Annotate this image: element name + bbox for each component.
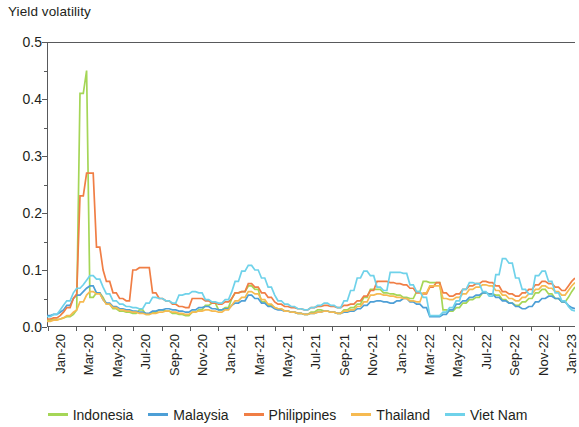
x-tick [559,327,560,331]
x-tick-label: Jan-22 [394,334,409,374]
x-tick-label: May-20 [110,334,125,377]
x-tick [474,327,475,331]
legend-item-philippines[interactable]: Philippines [244,407,337,423]
plot-area: 0.00.10.20.30.40.5 Jan-20Mar-20May-20Jul… [47,42,575,327]
x-tick [531,327,532,331]
x-tick [218,327,219,331]
y-tick-label: 0.0 [23,319,42,335]
x-tick [76,327,77,331]
x-tick [303,327,304,331]
x-tick-label: May-21 [280,334,295,377]
x-tick [48,327,49,331]
legend-item-viet-nam[interactable]: Viet Nam [445,407,527,423]
legend-swatch-icon [148,413,168,416]
legend-swatch-icon [445,413,465,416]
series-line-viet-nam [47,259,575,317]
chart-legend: IndonesiaMalaysiaPhilippinesThailandViet… [0,402,575,427]
x-tick [389,327,390,331]
x-tick [133,327,134,331]
y-tick-label: 0.1 [23,262,42,278]
y-tick-major [42,327,47,328]
legend-label: Viet Nam [470,407,527,423]
legend-label: Thailand [376,407,430,423]
x-tick [275,327,276,331]
legend-label: Philippines [269,407,337,423]
legend-item-malaysia[interactable]: Malaysia [148,407,228,423]
y-tick-label: 0.4 [23,91,42,107]
series-line-thailand [47,283,575,322]
x-tick [332,327,333,331]
x-tick-label: Sep-20 [167,334,182,376]
x-tick-label: Jul-21 [308,334,323,369]
legend-item-thailand[interactable]: Thailand [351,407,430,423]
series-lines [47,42,575,327]
x-tick-label: Mar-20 [81,334,96,375]
x-tick [247,327,248,331]
x-tick-label: Jan-21 [223,334,238,374]
x-tick-label: Mar-22 [422,334,437,375]
y-tick-label: 0.3 [23,148,42,164]
legend-item-indonesia[interactable]: Indonesia [48,407,134,423]
x-tick-label: Nov-20 [195,334,210,376]
legend-label: Indonesia [73,407,134,423]
x-tick-label: Sep-21 [337,334,352,376]
x-tick-label: Jan-20 [53,334,68,374]
x-tick [360,327,361,331]
legend-swatch-icon [48,413,68,416]
x-tick [445,327,446,331]
x-tick [190,327,191,331]
x-tick [162,327,163,331]
x-tick-label: Jan-23 [564,334,579,374]
x-tick [105,327,106,331]
legend-swatch-icon [351,413,371,416]
x-tick-label: Mar-21 [252,334,267,375]
x-tick-label: Jul-20 [138,334,153,369]
x-tick [417,327,418,331]
y-tick-label: 0.2 [23,205,42,221]
legend-label: Malaysia [173,407,228,423]
x-tick-label: Nov-21 [365,334,380,376]
series-line-indonesia [47,71,575,321]
x-tick-label: Nov-22 [536,334,551,376]
x-tick [502,327,503,331]
x-tick-label: Sep-22 [507,334,522,376]
y-tick-label: 0.5 [23,34,42,50]
x-tick-label: May-22 [450,334,465,377]
chart-title: Yield volatility [8,4,91,19]
x-tick-label: Jul-22 [479,334,494,369]
legend-swatch-icon [244,413,264,416]
